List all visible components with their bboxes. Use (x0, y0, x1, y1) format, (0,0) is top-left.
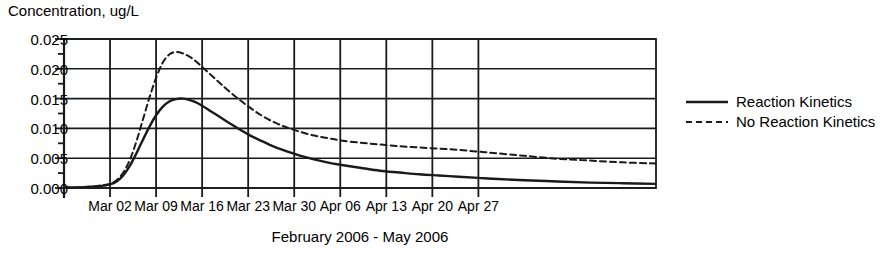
legend-item-reaction-kinetics: Reaction Kinetics (686, 92, 882, 112)
x-axis-tick-label: Apr 13 (366, 198, 407, 214)
x-axis-title: February 2006 - May 2006 (64, 228, 656, 246)
y-axis-tick-label: 0.005 (30, 151, 68, 166)
plot-frame (64, 39, 656, 188)
x-axis-tick-label: Mar 02 (88, 198, 132, 214)
y-axis-tick-label: 0.000 (30, 181, 68, 196)
x-axis-tick-label: Mar 16 (180, 198, 224, 214)
x-axis-tick-label: Apr 06 (320, 198, 361, 214)
x-axis-tick-label: Apr 27 (458, 198, 499, 214)
x-axis-tick-label: Mar 09 (134, 198, 178, 214)
x-axis-tick-label: Mar 30 (272, 198, 316, 214)
x-axis-tick-label: Mar 23 (226, 198, 270, 214)
legend-swatch-dashed-line (686, 117, 728, 127)
y-axis-tick-label: 0.025 (30, 32, 68, 47)
y-axis-tick-label: 0.020 (30, 61, 68, 76)
legend-item-no-reaction-kinetics: No Reaction Kinetics (686, 112, 882, 132)
y-axis-tick-label: 0.015 (30, 91, 68, 106)
chart-legend: Reaction Kinetics No Reaction Kinetics (686, 92, 882, 132)
legend-label-no-reaction-kinetics: No Reaction Kinetics (736, 113, 875, 131)
series-group (64, 52, 656, 187)
legend-label-reaction-kinetics: Reaction Kinetics (736, 93, 852, 111)
chart-figure: Concentration, ug/L 0.0250.0200.0150.010… (0, 0, 886, 257)
x-axis-tick-label: Apr 20 (412, 198, 453, 214)
y-axis-tick-label: 0.010 (30, 121, 68, 136)
legend-swatch-solid-line (686, 97, 728, 107)
